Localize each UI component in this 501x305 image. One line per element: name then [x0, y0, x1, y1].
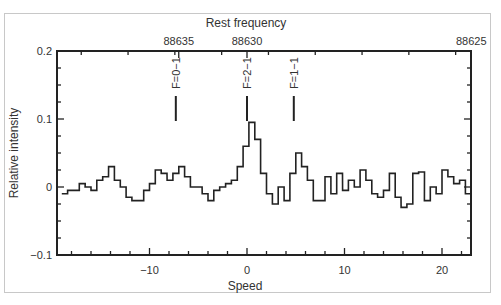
spectrum-chart: −1001020886358863088625−0.100.10.2 F=0−1…	[0, 0, 501, 305]
x-tick-label: 0	[244, 264, 250, 276]
marker-label: F=0−1	[170, 57, 182, 89]
y-tick-label: 0.2	[37, 45, 52, 57]
line-markers: F=0−1F=2−1F=1−1	[170, 57, 300, 121]
ticks: −1001020886358863088625−0.100.10.2	[30, 35, 486, 276]
x-tick-label: 10	[338, 264, 350, 276]
marker-label: F=1−1	[288, 57, 300, 89]
x2-tick-label: 88630	[232, 35, 263, 47]
spectrum-trace	[62, 122, 470, 207]
top-axis-title: Rest frequency	[206, 16, 287, 30]
y-axis-title: Relative intensity	[7, 108, 21, 199]
y-tick-label: −0.1	[30, 249, 52, 261]
plot-area-frame	[57, 51, 471, 255]
marker-label: F=2−1	[241, 57, 253, 89]
y-tick-label: 0.1	[37, 113, 52, 125]
x-axis-title: Speed	[228, 279, 263, 293]
x-tick-label: 20	[436, 264, 448, 276]
x2-tick-label: 88625	[456, 35, 487, 47]
axes	[57, 51, 471, 255]
x-tick-label: −10	[140, 264, 159, 276]
y-tick-label: 0	[46, 181, 52, 193]
x2-tick-label: 88635	[163, 35, 194, 47]
